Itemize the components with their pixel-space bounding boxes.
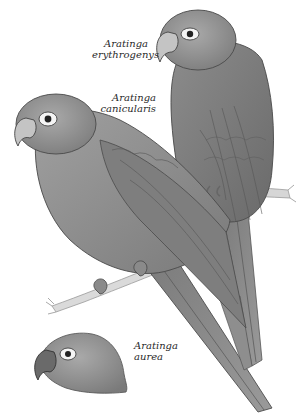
label-erythrogenys: Aratinga erythrogenys xyxy=(92,38,148,60)
bird-aurea xyxy=(35,333,127,393)
illustration-plate: Aratinga erythrogenys Aratinga canicular… xyxy=(0,0,302,414)
label-canicularis: Aratinga canicularis xyxy=(100,92,156,114)
label-aurea: Aratinga aurea xyxy=(134,340,178,362)
